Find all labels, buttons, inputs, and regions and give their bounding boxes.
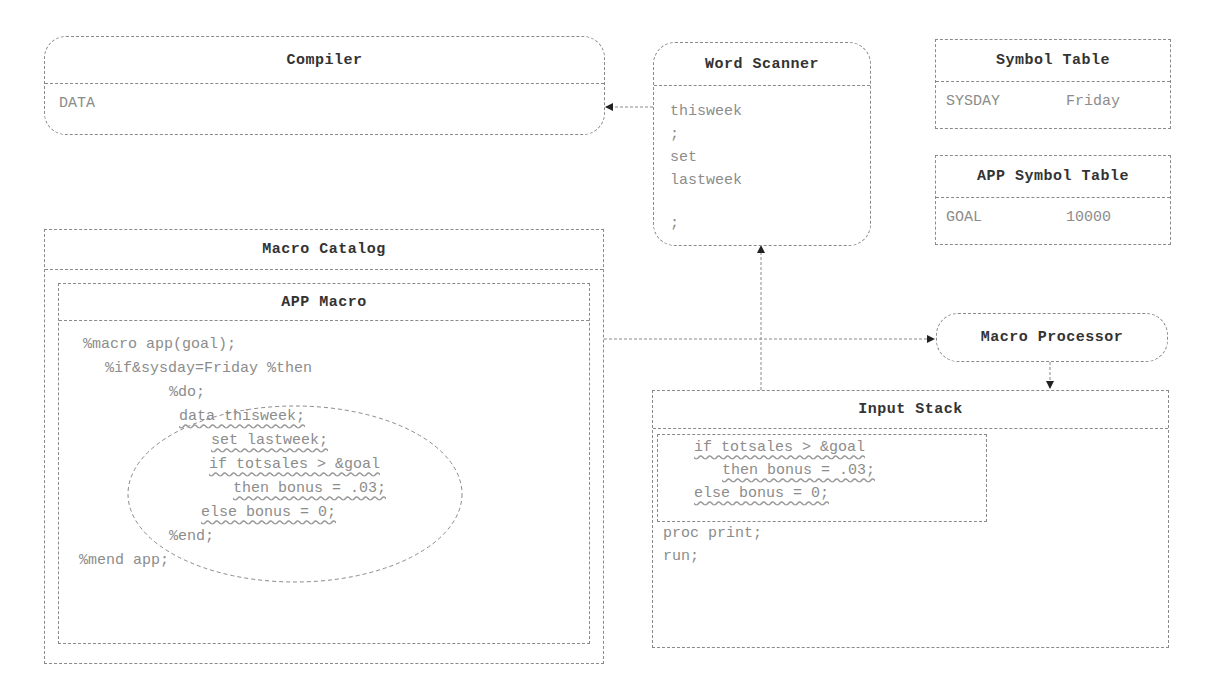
input-stack-inner-box: if totsales > &goal then bonus = .03; el… (657, 434, 987, 522)
macro-line-3: data thisweek; (179, 408, 305, 425)
token-0: thisweek (670, 103, 742, 120)
compiler-box: Compiler DATA (44, 36, 605, 135)
symbol-name: SYSDAY (946, 93, 1000, 110)
macro-processor-box: Macro Processor (936, 313, 1168, 362)
macro-line-9: %mend app; (79, 552, 169, 569)
app-macro-box: APP Macro %macro app(goal); %if&sysday=F… (58, 283, 590, 644)
app-symbol-value: 10000 (1066, 209, 1111, 226)
input-line-1: run; (663, 548, 699, 565)
macro-line-0: %macro app(goal); (83, 336, 236, 353)
app-symbol-table-title: APP Symbol Table (936, 156, 1170, 198)
app-macro-title: APP Macro (59, 284, 589, 321)
macro-line-4: set lastweek; (211, 432, 328, 449)
macro-line-6: then bonus = .03; (233, 480, 386, 497)
token-2: set (670, 149, 697, 166)
app-symbol-name: GOAL (946, 209, 982, 226)
word-scanner-title: Word Scanner (654, 43, 870, 86)
macro-line-7: else bonus = 0; (201, 504, 336, 521)
stack-line-0: if totsales > &goal (694, 439, 865, 456)
macro-line-2: %do; (169, 384, 205, 401)
token-4: ; (670, 215, 679, 232)
input-stack-title: Input Stack (653, 391, 1168, 429)
symbol-table-title: Symbol Table (936, 40, 1170, 82)
symbol-table-box: Symbol Table SYSDAY Friday (935, 39, 1171, 129)
stack-line-2: else bonus = 0; (694, 485, 829, 502)
macro-catalog-title: Macro Catalog (45, 230, 603, 270)
stack-line-1: then bonus = .03; (722, 462, 875, 479)
macro-line-5: if totsales > &goal (209, 456, 380, 473)
token-3: lastweek (670, 172, 742, 189)
input-stack-box: Input Stack if totsales > &goal then bon… (652, 390, 1169, 648)
compiler-title: Compiler (45, 37, 604, 84)
input-line-0: proc print; (663, 525, 762, 542)
compiler-content: DATA (59, 95, 95, 112)
macro-processor-title: Macro Processor (937, 314, 1167, 361)
symbol-value: Friday (1066, 93, 1120, 110)
app-symbol-table-box: APP Symbol Table GOAL 10000 (935, 155, 1171, 245)
word-scanner-box: Word Scanner thisweek ; set lastweek ; (653, 42, 871, 246)
macro-line-8: %end; (169, 528, 214, 545)
token-1: ; (670, 126, 679, 143)
macro-line-1: %if&sysday=Friday %then (105, 360, 312, 377)
